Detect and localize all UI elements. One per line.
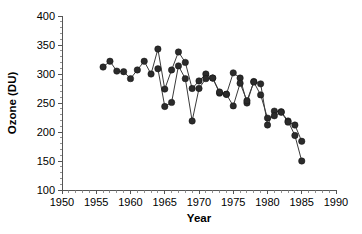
plot-background: [62, 16, 336, 190]
data-point-marker: [162, 103, 168, 109]
y-tick-label: 100: [37, 184, 55, 196]
x-axis-ticks: 195019551960196519701975198019851990: [50, 190, 348, 208]
data-point-marker: [175, 63, 181, 69]
data-point-marker: [244, 97, 250, 103]
data-point-marker: [127, 75, 133, 81]
data-point-marker: [155, 46, 161, 52]
data-point-marker: [264, 122, 270, 128]
data-point-marker: [237, 80, 243, 86]
data-point-marker: [230, 103, 236, 109]
data-point-marker: [182, 59, 188, 65]
data-point-marker: [168, 67, 174, 73]
y-tick-label: 200: [37, 126, 55, 138]
y-tick-label: 300: [37, 68, 55, 80]
data-point-marker: [210, 75, 216, 81]
data-point-marker: [100, 64, 106, 70]
data-point-marker: [285, 119, 291, 125]
data-point-marker: [189, 85, 195, 91]
data-point-marker: [299, 158, 305, 164]
x-tick-label: 1975: [221, 196, 245, 208]
x-tick-label: 1965: [153, 196, 177, 208]
y-tick-label: 400: [37, 10, 55, 22]
data-point-marker: [203, 75, 209, 81]
data-point-marker: [162, 86, 168, 92]
data-point-marker: [223, 91, 229, 97]
x-tick-label: 1960: [118, 196, 142, 208]
data-point-marker: [292, 122, 298, 128]
data-point-marker: [196, 78, 202, 84]
data-point-marker: [148, 71, 154, 77]
ozone-line-chart: 100150200250300350400 195019551960196519…: [0, 0, 362, 234]
y-tick-label: 250: [37, 97, 55, 109]
data-point-marker: [120, 68, 126, 74]
data-point-marker: [257, 81, 263, 87]
data-point-marker: [264, 115, 270, 121]
data-point-marker: [278, 109, 284, 115]
x-tick-label: 1955: [84, 196, 108, 208]
x-tick-label: 1985: [290, 196, 314, 208]
data-point-marker: [189, 118, 195, 124]
data-point-marker: [251, 79, 257, 85]
chart-figure: 100150200250300350400 195019551960196519…: [0, 0, 362, 234]
data-point-marker: [182, 75, 188, 81]
data-point-marker: [299, 138, 305, 144]
data-point-marker: [196, 85, 202, 91]
data-point-marker: [216, 89, 222, 95]
data-point-marker: [292, 132, 298, 138]
data-point-marker: [107, 58, 113, 64]
x-tick-label: 1980: [255, 196, 279, 208]
data-point-marker: [175, 49, 181, 55]
x-tick-label: 1950: [50, 196, 74, 208]
data-point-marker: [230, 70, 236, 76]
data-point-marker: [257, 92, 263, 98]
data-point-marker: [155, 66, 161, 72]
y-axis-ticks: 100150200250300350400: [37, 10, 62, 196]
x-tick-label: 1990: [324, 196, 348, 208]
x-axis-title: Year: [187, 212, 212, 224]
data-point-marker: [141, 58, 147, 64]
data-point-marker: [271, 113, 277, 119]
y-tick-label: 150: [37, 155, 55, 167]
x-tick-label: 1970: [187, 196, 211, 208]
data-point-marker: [134, 67, 140, 73]
y-tick-label: 350: [37, 39, 55, 51]
data-point-marker: [168, 99, 174, 105]
y-axis-title: Ozone (DU): [6, 72, 18, 135]
data-point-marker: [114, 68, 120, 74]
